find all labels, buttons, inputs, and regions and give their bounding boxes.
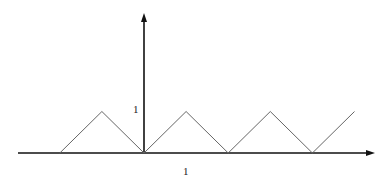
x-tick-label: 1 <box>183 165 189 177</box>
x-axis-arrow-icon <box>366 150 375 156</box>
triangle-wave-curve <box>60 112 355 154</box>
y-axis-arrow-icon <box>141 13 147 22</box>
y-tick-label: 1 <box>133 103 139 115</box>
triangle-wave-diagram: 1 1 <box>0 0 388 183</box>
